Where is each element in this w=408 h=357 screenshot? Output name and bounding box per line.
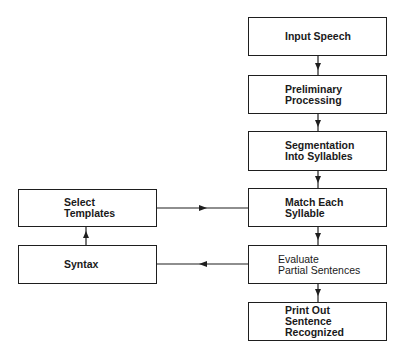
box-label: Into Syllables bbox=[285, 151, 386, 162]
box-label: Syntax bbox=[64, 259, 156, 270]
box-label: Input Speech bbox=[285, 31, 386, 42]
box-label: Syllable bbox=[285, 208, 386, 219]
box-label: Processing bbox=[285, 95, 386, 106]
input-speech-box: Input Speech bbox=[248, 17, 387, 56]
select-templates-box: Select Templates bbox=[18, 189, 157, 227]
evaluate-sentences-box: Evaluate Partial Sentences bbox=[248, 245, 387, 284]
box-label: Evaluate bbox=[278, 254, 386, 265]
box-label: Partial Sentences bbox=[278, 265, 386, 276]
box-label: Recognized bbox=[285, 327, 386, 338]
match-syllable-box: Match Each Syllable bbox=[248, 188, 387, 227]
syntax-box: Syntax bbox=[18, 245, 157, 284]
print-sentence-box: Print Out Sentence Recognized bbox=[248, 302, 387, 341]
box-label: Templates bbox=[64, 208, 156, 219]
box-label: Match Each bbox=[285, 197, 386, 208]
segmentation-box: Segmentation Into Syllables bbox=[248, 131, 387, 171]
box-label: Preliminary bbox=[285, 84, 386, 95]
preliminary-processing-box: Preliminary Processing bbox=[248, 75, 387, 114]
